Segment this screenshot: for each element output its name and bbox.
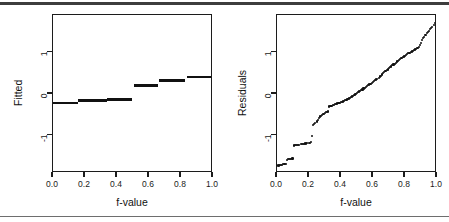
x-axis-title-fitted: f-value [52,196,212,208]
x-tick-label: 0.4 [103,180,129,189]
x-tick [275,172,276,177]
x-tick-label: 1.0 [423,180,449,189]
x-tick [435,172,436,177]
x-tick-label: 0.6 [135,180,161,189]
fitted-panel: Fitted 0.00.20.40.60.81.010-1 f-value [0,0,224,216]
y-tick-label: 1 [264,51,273,65]
x-tick-label: 0.8 [391,180,417,189]
x-tick [147,172,148,177]
scatter-point [291,157,293,159]
scatter-point [310,141,312,143]
step-segment [134,84,158,87]
residuals-panel: Residuals 0.00.20.40.60.81.010-1 f-value [224,0,448,216]
scatter-point [327,110,329,112]
x-tick-label: 0.4 [327,180,353,189]
x-tick [179,172,180,177]
y-tick-label: 0 [40,93,49,107]
y-tick-label: -1 [264,135,273,149]
plot-box-residuals [276,14,436,172]
x-tick-label: 0.6 [359,180,385,189]
x-tick [51,172,52,177]
x-tick [403,172,404,177]
scatter-point [428,30,430,32]
x-tick-label: 0.0 [263,180,289,189]
scatter-point [419,44,421,46]
x-tick [115,172,116,177]
y-tick-label: 1 [40,51,49,65]
scatter-point [433,24,435,26]
step-segment [78,99,107,102]
step-segment [187,76,211,79]
y-tick-label: 0 [264,93,273,107]
scatter-point [311,135,313,137]
x-tick-label: 1.0 [199,180,225,189]
x-tick-label: 0.0 [39,180,65,189]
step-segment [107,98,133,101]
x-tick [371,172,372,177]
x-tick-label: 0.2 [295,180,321,189]
scatter-point [424,34,426,36]
x-tick [83,172,84,177]
step-segment [53,102,78,105]
x-tick [307,172,308,177]
x-tick [211,172,212,177]
plot-box-fitted [52,14,212,172]
y-axis-title-fitted: Fitted [12,14,24,172]
scatter-point [421,39,423,41]
x-tick-label: 0.8 [167,180,193,189]
page-bottom-rule [0,216,449,217]
step-segment [159,79,185,82]
x-tick [339,172,340,177]
y-tick-label: -1 [40,135,49,149]
scatter-point [285,163,287,165]
x-tick-label: 0.2 [71,180,97,189]
step-series-fitted [53,15,211,171]
x-axis-title-residuals: f-value [276,196,436,208]
y-axis-title-residuals: Residuals [236,14,248,172]
scatter-series-residuals [277,15,435,171]
